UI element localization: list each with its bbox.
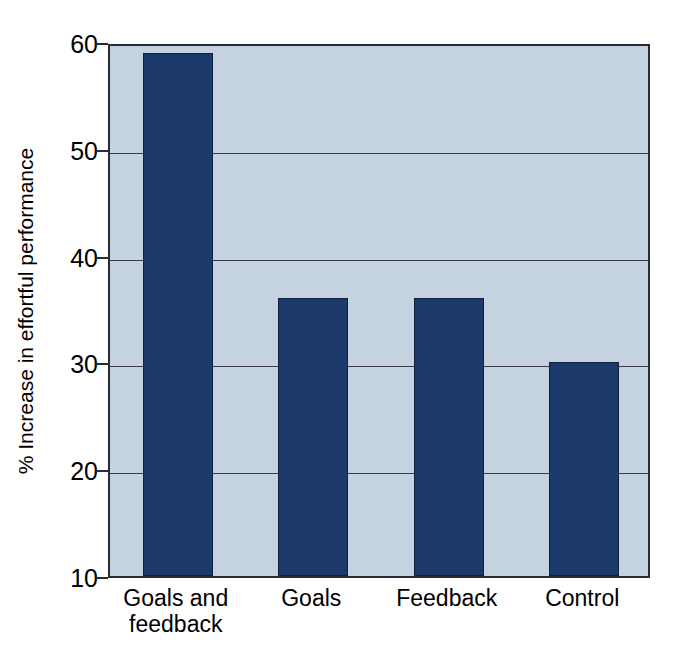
plot-area	[108, 44, 650, 578]
y-tick-mark	[97, 363, 108, 365]
y-tick-label: 60	[42, 32, 98, 57]
x-tick-label: Control	[545, 586, 619, 612]
x-tick-label: Feedback	[396, 586, 497, 612]
x-axis-tick-labels: Goals and feedbackGoalsFeedbackControl	[108, 586, 650, 656]
bar-chart-figure: % Increase in effortful performance 1020…	[0, 0, 678, 659]
y-tick-label: 50	[42, 138, 98, 163]
y-tick-mark	[97, 257, 108, 259]
y-axis-title: % Increase in effortful performance	[12, 44, 40, 578]
y-tick-label: 20	[42, 459, 98, 484]
bar	[549, 362, 619, 576]
y-axis-tick-labels: 102030405060	[42, 0, 98, 659]
y-tick-mark	[97, 470, 108, 472]
x-tick-label: Goals	[281, 586, 341, 612]
bar	[414, 298, 484, 576]
bars-layer	[110, 46, 648, 576]
y-tick-label: 40	[42, 245, 98, 270]
y-tick-label: 30	[42, 352, 98, 377]
y-axis-tick-marks	[97, 0, 108, 659]
bar	[143, 53, 213, 576]
x-tick-label: Goals and feedback	[123, 586, 228, 638]
y-tick-mark	[97, 43, 108, 45]
y-tick-label: 10	[42, 566, 98, 591]
y-tick-mark	[97, 150, 108, 152]
bar	[278, 298, 348, 576]
y-tick-mark	[97, 577, 108, 579]
